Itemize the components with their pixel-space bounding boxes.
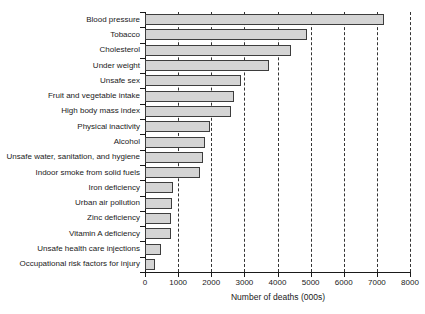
bar bbox=[145, 29, 307, 40]
gridline-8000 bbox=[410, 12, 411, 272]
y-axis-tick bbox=[140, 119, 145, 120]
category-label: Cholesterol bbox=[0, 45, 140, 54]
x-axis-tick bbox=[178, 273, 179, 277]
category-label: Indoor smoke from solid fuels bbox=[0, 168, 140, 177]
y-axis-tick bbox=[140, 211, 145, 212]
bar bbox=[145, 137, 205, 148]
x-axis-tick bbox=[377, 273, 378, 277]
category-label: Occupational risk factors for injury bbox=[0, 259, 140, 268]
y-axis-tick bbox=[140, 73, 145, 74]
y-axis-tick bbox=[140, 88, 145, 89]
category-label: Tobacco bbox=[0, 30, 140, 39]
gridline-7000 bbox=[377, 12, 378, 272]
bar bbox=[145, 106, 231, 117]
category-label: High body mass index bbox=[0, 106, 140, 115]
category-label: Fruit and vegetable intake bbox=[0, 91, 140, 100]
bar bbox=[145, 244, 161, 255]
x-axis-tick bbox=[244, 273, 245, 277]
bar bbox=[145, 182, 173, 193]
category-label: Physical inactivity bbox=[0, 122, 140, 131]
x-axis-tick-label: 0 bbox=[143, 278, 147, 288]
y-axis-tick bbox=[140, 241, 145, 242]
y-axis-tick bbox=[140, 226, 145, 227]
x-axis-tick-label: 5000 bbox=[302, 278, 320, 288]
y-axis-tick bbox=[140, 104, 145, 105]
category-label: Under weight bbox=[0, 61, 140, 70]
x-axis-tick bbox=[211, 273, 212, 277]
bar bbox=[145, 198, 172, 209]
x-axis-tick bbox=[145, 273, 146, 277]
gridline-6000 bbox=[344, 12, 345, 272]
x-axis-tick-label: 2000 bbox=[202, 278, 220, 288]
y-axis-tick bbox=[140, 134, 145, 135]
y-axis-tick bbox=[140, 27, 145, 28]
bar bbox=[145, 167, 200, 178]
bar bbox=[145, 45, 291, 56]
category-label: Urban air pollution bbox=[0, 198, 140, 207]
x-axis-tick-label: 7000 bbox=[368, 278, 386, 288]
x-axis-tick-label: 3000 bbox=[235, 278, 253, 288]
category-label: Blood pressure bbox=[0, 15, 140, 24]
y-axis-tick bbox=[140, 58, 145, 59]
y-axis-tick bbox=[140, 180, 145, 181]
y-axis-tick bbox=[140, 165, 145, 166]
category-label: Vitamin A deficiency bbox=[0, 229, 140, 238]
x-axis-tick bbox=[344, 273, 345, 277]
category-label: Unsafe water, sanitation, and hygiene bbox=[0, 152, 140, 161]
bar bbox=[145, 259, 155, 270]
x-axis-tick bbox=[410, 273, 411, 277]
bar bbox=[145, 75, 241, 86]
bar bbox=[145, 213, 171, 224]
category-label: Unsafe health care injections bbox=[0, 244, 140, 253]
bar-chart: Blood pressureTobaccoCholesterolUnder we… bbox=[0, 0, 425, 314]
gridline-5000 bbox=[311, 12, 312, 272]
category-label: Iron deficiency bbox=[0, 183, 140, 192]
x-axis-tick bbox=[278, 273, 279, 277]
bar bbox=[145, 228, 171, 239]
y-axis-tick bbox=[140, 12, 145, 13]
category-label: Alcohol bbox=[0, 137, 140, 146]
category-label: Unsafe sex bbox=[0, 76, 140, 85]
x-axis-title: Number of deaths (000s) bbox=[145, 292, 411, 302]
bar bbox=[145, 60, 269, 71]
y-axis-tick bbox=[140, 257, 145, 258]
bar bbox=[145, 91, 234, 102]
bar bbox=[145, 152, 203, 163]
x-axis-tick-label: 4000 bbox=[269, 278, 287, 288]
bar bbox=[145, 121, 210, 132]
x-axis-tick-label: 6000 bbox=[335, 278, 353, 288]
bar bbox=[145, 14, 384, 25]
category-label: Zinc deficiency bbox=[0, 213, 140, 222]
x-axis-tick-label: 1000 bbox=[169, 278, 187, 288]
x-axis-tick-label: 8000 bbox=[401, 278, 419, 288]
x-axis-tick bbox=[311, 273, 312, 277]
